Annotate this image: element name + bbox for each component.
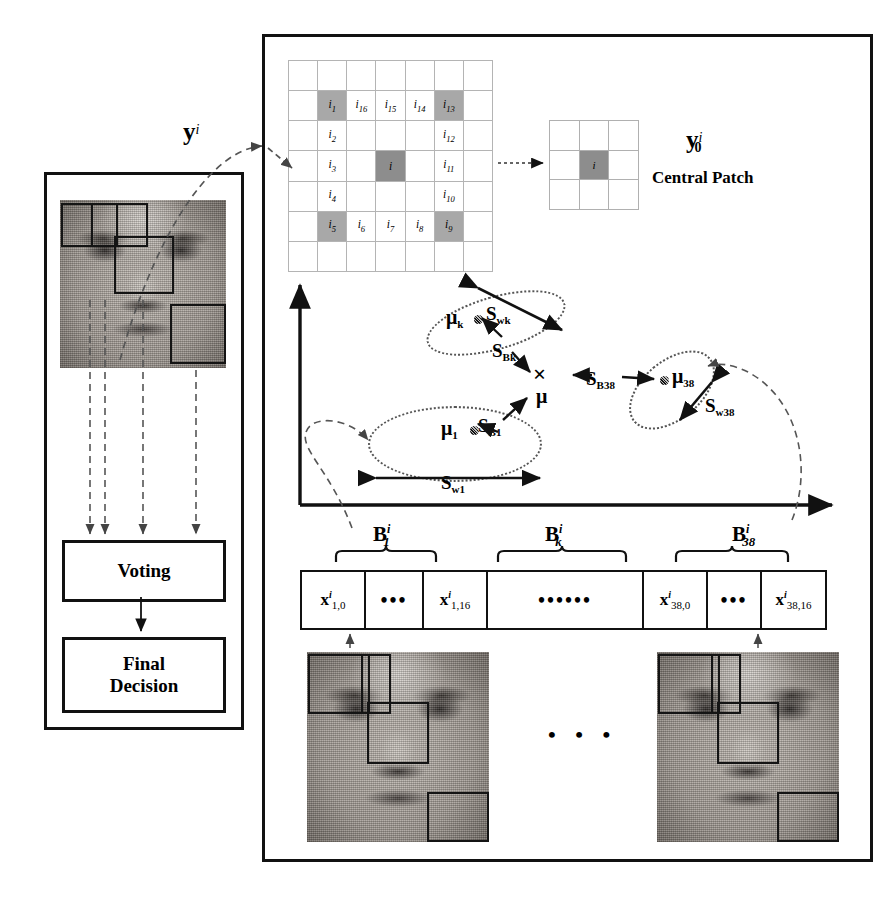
probe-symbol-sup: i xyxy=(196,122,200,137)
feature-cell-38-16: xi38,16 xyxy=(762,572,825,628)
probe-symbol: yi xyxy=(183,118,199,146)
mu-base-38: μ xyxy=(672,365,683,387)
mu-base-k: μ xyxy=(446,306,457,328)
grid-cell-i7: i7 xyxy=(376,212,404,241)
grid-cell-i5: i5 xyxy=(318,212,346,241)
grid-cell-label: i9 xyxy=(435,219,463,234)
final-decision-box[interactable]: Final Decision xyxy=(62,637,226,713)
grid-cell-label: i2 xyxy=(318,128,346,143)
s-base-wk: S xyxy=(486,303,497,324)
patch-cell xyxy=(550,180,579,209)
grid-cell-i4: i4 xyxy=(318,182,346,211)
global-mean-mu: μ xyxy=(536,385,547,407)
grid-cell-i12: i12 xyxy=(435,121,463,150)
class-mean-label-1: μ1 xyxy=(441,417,458,441)
within-scatter-label-38: Sw38 xyxy=(705,395,735,418)
s-base-w1: S xyxy=(441,472,452,493)
grid-cell-empty xyxy=(318,242,346,271)
central-patch-symbol-sub: 0 xyxy=(694,140,701,155)
feature-cell-38-0: xi38,0 xyxy=(644,572,708,628)
within-scatter-label-1: Sw1 xyxy=(441,472,465,495)
grid-cell-empty xyxy=(464,121,492,150)
feature-vector-row: xi1,0•••xi1,16••••••xi38,0•••xi38,16 xyxy=(300,570,827,630)
s-sub-w38: w38 xyxy=(716,406,735,418)
grid-cell-empty xyxy=(435,61,463,90)
grid-cell-empty xyxy=(435,242,463,271)
grid-cell-empty xyxy=(464,212,492,241)
grid-cell-empty xyxy=(289,151,317,180)
patch-rect xyxy=(717,702,779,764)
grid-cell-empty xyxy=(289,61,317,90)
grid-cell-i8: i8 xyxy=(406,212,434,241)
between-scatter-label-1: SB1 xyxy=(478,415,501,438)
block-label-1-sub: 1 xyxy=(383,534,390,549)
grid-cell-i2: i2 xyxy=(318,121,346,150)
grid-cell-i11: i11 xyxy=(435,151,463,180)
class-mean-marker-38 xyxy=(660,376,669,385)
s-sub-b1: B1 xyxy=(489,426,502,438)
grid-cell-label: i7 xyxy=(376,219,404,234)
feature-cell-label: xi1,0 xyxy=(320,589,345,611)
grid-cell-empty xyxy=(289,182,317,211)
feature-cell-label: xi38,0 xyxy=(660,589,691,611)
final-decision-label: Final Decision xyxy=(65,653,223,698)
feature-cell-label: xi38,16 xyxy=(775,589,811,611)
patch-cell-center: i xyxy=(580,151,609,180)
central-patch-grid: i xyxy=(549,120,639,210)
grid-cell-i6: i6 xyxy=(347,212,375,241)
s-base-b1: S xyxy=(478,415,489,436)
s-sub-w1: w1 xyxy=(452,483,465,495)
grid-cell-empty xyxy=(406,61,434,90)
grid-cell-empty xyxy=(464,182,492,211)
grid-center-label: i xyxy=(376,160,404,172)
grid-cell-empty xyxy=(464,91,492,120)
grid-cell-i15: i15 xyxy=(376,91,404,120)
block-label-k-sub: k xyxy=(555,534,562,549)
voting-box[interactable]: Voting xyxy=(62,540,226,602)
grid-cell-i16: i16 xyxy=(347,91,375,120)
s-base-w38: S xyxy=(705,395,716,416)
patch-cell xyxy=(580,121,609,150)
mu-sub-k: k xyxy=(457,318,463,330)
mu-sub-38: 38 xyxy=(683,377,694,389)
block-label-38-sub: 38 xyxy=(742,534,755,549)
feature-cell-ellipsis: ••• xyxy=(708,572,762,628)
grid-cell-i13: i13 xyxy=(435,91,463,120)
training-faces-separator: • • • xyxy=(548,722,617,748)
grid-cell-i10: i10 xyxy=(435,182,463,211)
global-mean-label: μ xyxy=(536,385,547,408)
grid-cell-empty xyxy=(376,121,404,150)
feature-cell-label: xi1,16 xyxy=(440,589,471,611)
grid-cell-label: i11 xyxy=(435,158,463,173)
grid-cell-label: i16 xyxy=(347,98,375,113)
ellipsis-dots: ••• xyxy=(720,590,747,610)
grid-cell-label: i6 xyxy=(347,219,375,234)
grid-cell-i14: i14 xyxy=(406,91,434,120)
s-sub-wk: wk xyxy=(497,314,511,326)
grid-cell-empty xyxy=(464,61,492,90)
mu-base-1: μ xyxy=(441,417,452,439)
grid-cell-i1: i1 xyxy=(318,91,346,120)
grid-cell-empty xyxy=(464,151,492,180)
grid-cell-empty xyxy=(376,182,404,211)
feature-cell-1-16: xi1,16 xyxy=(424,572,488,628)
grid-cell-empty xyxy=(376,61,404,90)
block-label-38: Bi38 xyxy=(732,522,755,550)
block-label-k: Bik xyxy=(545,522,562,550)
grid-cell-label: i5 xyxy=(318,219,346,234)
patch-rect xyxy=(777,792,839,842)
feature-cell-1-0: xi1,0 xyxy=(302,572,366,628)
feature-cell-ellipsis: ••• xyxy=(366,572,424,628)
grid-cell-i3: i3 xyxy=(318,151,346,180)
s-base-bk: S xyxy=(492,340,503,361)
grid-cell-empty xyxy=(347,121,375,150)
class-mean-label-k: μk xyxy=(446,306,463,330)
patch-rect xyxy=(170,304,226,364)
grid-cell-empty xyxy=(347,242,375,271)
grid-cell-empty xyxy=(406,151,434,180)
patch-cell xyxy=(609,180,638,209)
grid-cell-empty xyxy=(289,91,317,120)
grid-cell-label: i12 xyxy=(435,128,463,143)
grid-cell-center: i xyxy=(376,151,404,180)
grid-cell-label: i8 xyxy=(406,219,434,234)
